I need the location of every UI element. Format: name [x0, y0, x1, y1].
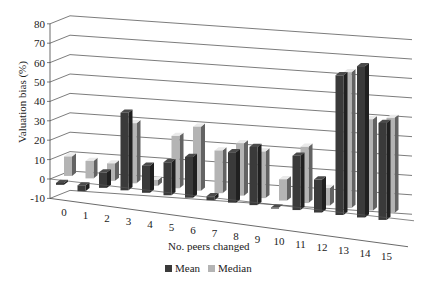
svg-text:1: 1 [83, 209, 89, 221]
svg-text:7: 7 [212, 227, 218, 239]
chart-legend: Mean Median [165, 262, 252, 274]
svg-text:4: 4 [147, 218, 153, 230]
svg-text:0: 0 [61, 206, 67, 218]
svg-text:12: 12 [317, 241, 328, 253]
legend-swatch-mean [165, 265, 172, 272]
svg-text:2: 2 [104, 212, 110, 224]
svg-text:20: 20 [34, 134, 46, 146]
svg-text:0: 0 [40, 173, 46, 185]
legend-label-mean: Mean [175, 262, 200, 274]
chart-axes: -100102030405060708001234567891011121314… [30, 18, 414, 262]
svg-text:30: 30 [34, 115, 46, 127]
svg-text:14: 14 [360, 247, 372, 259]
legend-swatch-median [208, 265, 215, 272]
svg-text:3: 3 [126, 215, 132, 227]
legend-item-mean: Mean [165, 262, 200, 274]
svg-text:10: 10 [34, 154, 46, 166]
svg-text:5: 5 [169, 221, 175, 233]
svg-text:9: 9 [255, 233, 261, 245]
svg-text:-10: -10 [30, 192, 45, 204]
svg-text:15: 15 [381, 250, 393, 262]
svg-text:13: 13 [338, 244, 350, 256]
svg-text:6: 6 [190, 224, 196, 236]
legend-item-median: Median [208, 262, 252, 274]
svg-text:60: 60 [34, 57, 46, 69]
legend-label-median: Median [218, 262, 252, 274]
svg-text:40: 40 [34, 95, 46, 107]
svg-text:70: 70 [34, 37, 46, 49]
svg-text:80: 80 [34, 18, 46, 30]
chart-bars [56, 63, 399, 220]
x-axis-label: No. peers changed [168, 240, 250, 252]
svg-text:10: 10 [274, 235, 286, 247]
y-axis-label: Valuation bias (%) [16, 52, 28, 152]
svg-text:11: 11 [295, 238, 306, 250]
svg-text:50: 50 [34, 76, 46, 88]
